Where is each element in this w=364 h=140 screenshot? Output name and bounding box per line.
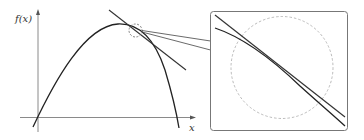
zoom-inset — [211, 12, 348, 131]
diagram-canvas: f(x) x — [0, 0, 364, 140]
y-axis-arrow-icon — [36, 9, 40, 15]
inset-border — [211, 12, 348, 131]
x-axis-arrow-icon — [190, 116, 196, 120]
tangent-line — [109, 10, 186, 70]
connector-line-bottom — [142, 32, 211, 50]
function-curve — [33, 24, 179, 128]
axes — [20, 9, 196, 132]
x-axis-label: x — [189, 122, 195, 133]
connector-line-top — [142, 31, 211, 42]
y-axis-label: f(x) — [14, 13, 32, 24]
